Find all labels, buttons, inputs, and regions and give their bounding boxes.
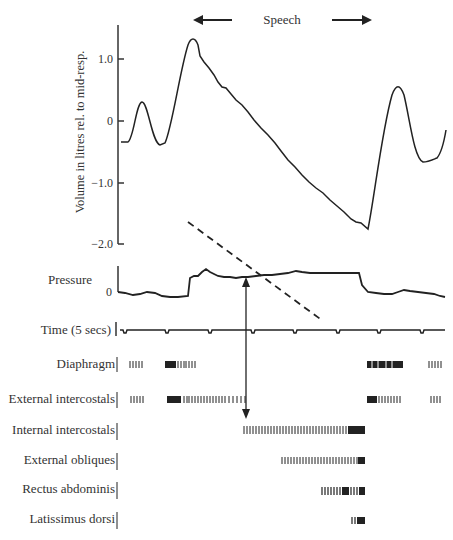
- tick-neg2: −2.0: [91, 237, 113, 251]
- emg-latissimus-dorsi-bursts: [352, 517, 365, 524]
- tick-0: 0: [107, 114, 113, 128]
- volume-axis-label: Volume in litres rel. to mid-resp.: [73, 51, 87, 214]
- label-diaphragm: Diaphragm: [57, 356, 115, 372]
- label-latissimus-dorsi: Latissimus dorsi: [29, 511, 115, 527]
- double-headed-arrow: [242, 277, 250, 419]
- pressure-zero-tick: 0: [106, 285, 112, 299]
- emg-external-obliques-bursts: [282, 457, 365, 464]
- time-marker-line: [120, 330, 445, 333]
- pressure-curve: [118, 269, 445, 297]
- speech-label: Speech: [263, 12, 301, 27]
- emg-rectus-abdominis-bursts: [322, 487, 365, 495]
- tick-1: 1.0: [98, 52, 113, 66]
- volume-axis: 1.0 0 −1.0 −2.0 Volume in litres rel. to…: [73, 25, 124, 251]
- arrow-up-icon: [242, 277, 250, 287]
- speech-indicator: Speech: [193, 12, 372, 27]
- label-rectus-abdominis: Rectus abdominis: [22, 481, 115, 497]
- time-track: Time (5 secs): [41, 322, 445, 337]
- tick-neg1: −1.0: [91, 176, 113, 190]
- label-internal-intercostals: Internal intercostals: [12, 422, 115, 438]
- label-external-obliques: External obliques: [24, 452, 115, 468]
- emg-internal-intercostals-bursts: [244, 426, 365, 434]
- emg-external-intercostals-bursts: [131, 396, 440, 403]
- emg-diaphragm-bursts: [130, 361, 441, 368]
- arrow-down-icon: [242, 409, 250, 419]
- pressure-label: Pressure: [48, 272, 92, 287]
- label-external-intercostals: External intercostals: [9, 391, 116, 407]
- time-label: Time (5 secs): [41, 322, 111, 337]
- volume-curve: [121, 39, 446, 229]
